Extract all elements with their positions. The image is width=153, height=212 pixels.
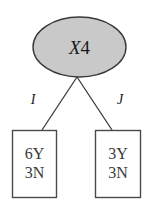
leaf-left-line-2: 3N (25, 164, 45, 181)
edge-right-line (77, 77, 112, 130)
tree-canvas: X4 I J 6Y 3N 3Y 3N (0, 0, 153, 212)
leaf-left-line-1: 6Y (25, 145, 45, 162)
root-node-label-index: 4 (81, 37, 91, 58)
leaf-right-line-2: 3N (108, 164, 128, 181)
edge-right-label: J (117, 92, 124, 107)
edge-left-label: I (30, 92, 37, 107)
decision-tree-diagram: X4 I J 6Y 3N 3Y 3N (0, 0, 153, 212)
leaf-right-line-1: 3Y (108, 145, 128, 162)
edge-left-line (42, 77, 77, 130)
root-node-label: X4 (68, 37, 91, 58)
